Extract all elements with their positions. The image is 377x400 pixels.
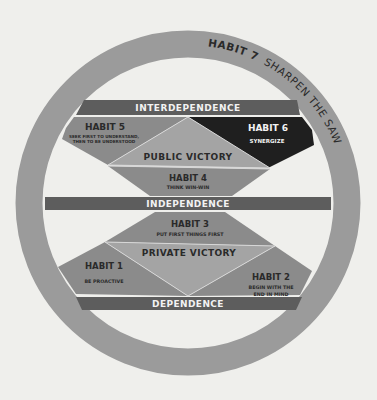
habit5-desc-line2: THEN TO BE UNDERSTOOD	[73, 139, 136, 144]
dependence-label: DEPENDENCE	[152, 299, 224, 309]
habit3-desc: PUT FIRST THINGS FIRST	[156, 232, 224, 237]
private-victory-label: PRIVATE VICTORY	[142, 248, 237, 258]
habit1-label: HABIT 1	[85, 261, 123, 271]
public-victory-label: PUBLIC VICTORY	[144, 152, 233, 162]
interdependence-label: INTERDEPENDENCE	[135, 103, 240, 113]
habit4-label: HABIT 4	[169, 173, 207, 183]
habit6-desc: SYNERGIZE	[250, 138, 285, 144]
habit3-label: HABIT 3	[171, 219, 209, 229]
habit3-region	[105, 212, 275, 246]
habit5-label: HABIT 5	[85, 122, 125, 132]
habit1-desc: BE PROACTIVE	[84, 279, 123, 284]
habit2-desc-line1: BEGIN WITH THE	[249, 285, 294, 290]
habit2-label: HABIT 2	[252, 272, 290, 282]
seven-habits-diagram: HABIT 7 SHARPEN THE SAW INTERDEPENDENCE …	[0, 0, 377, 400]
habit6-label: HABIT 6	[248, 123, 288, 133]
habit4-desc: THINK WIN-WIN	[167, 185, 209, 190]
independence-label: INDEPENDENCE	[146, 199, 229, 209]
habit2-desc-line2: END IN MIND	[254, 292, 289, 297]
